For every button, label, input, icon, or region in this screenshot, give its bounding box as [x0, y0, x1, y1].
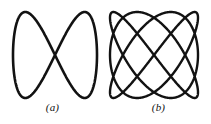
figure-panel: (a) (b) [0, 0, 211, 124]
lissajous-path-a [13, 12, 97, 98]
lissajous-curve-a [0, 0, 105, 104]
lissajous-curve-b [106, 0, 211, 104]
figure-caption-a: (a) [0, 100, 105, 114]
figure-caption-b: (b) [106, 100, 211, 114]
figure-panel-b: (b) [106, 0, 211, 124]
figure-panel-a: (a) [0, 0, 105, 124]
lissajous-path-b [110, 12, 198, 98]
